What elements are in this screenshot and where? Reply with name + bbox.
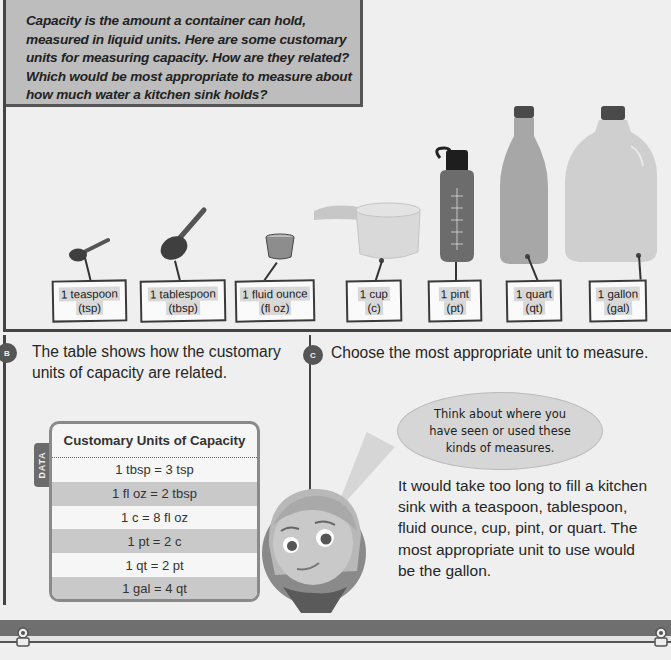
table-row: 1 gal = 4 qt xyxy=(52,577,257,601)
label-teaspoon: 1 teaspoon (tsp) xyxy=(52,279,128,322)
table-title: Customary Units of Capacity xyxy=(52,424,257,458)
label-tablespoon: 1 tablespoon (tbsp) xyxy=(140,279,227,322)
label-cup: 1 cup (c) xyxy=(346,280,403,323)
quart-bottle-icon xyxy=(496,106,552,266)
tablespoon-icon xyxy=(156,206,216,266)
intro-text: Capacity is the amount a container can h… xyxy=(26,12,361,105)
label-fluid-ounce: 1 fluid ounce (fl oz) xyxy=(235,279,316,322)
measuring-cup-icon xyxy=(314,196,424,266)
section-b-badge: B xyxy=(0,343,17,363)
speech-bubble: Think about where you have seen or used … xyxy=(397,392,603,470)
robot-marker-icon xyxy=(15,627,31,647)
character-avatar-icon xyxy=(261,475,367,615)
table-row: 1 fl oz = 2 tbsp xyxy=(52,482,257,506)
table-row: 1 c = 8 fl oz xyxy=(52,506,257,530)
table-row: 1 pt = 2 c xyxy=(52,529,257,553)
data-tab: DATA xyxy=(34,443,50,487)
gallon-jug-icon xyxy=(561,106,661,266)
fluid-ounce-cup-icon xyxy=(264,233,296,261)
table-row: 1 tbsp = 3 tsp xyxy=(52,458,257,482)
robot-marker-icon xyxy=(653,627,669,647)
panel-b-text: The table shows how the customary units … xyxy=(32,341,302,383)
panel-c-text: Choose the most appropriate unit to meas… xyxy=(331,342,671,363)
label-quart: 1 quart (qt) xyxy=(506,280,563,323)
footer-band-stripe xyxy=(0,636,671,643)
answer-text: It would take too long to fill a kitchen… xyxy=(398,475,653,581)
water-bottle-icon xyxy=(428,146,478,266)
capacity-table: Customary Units of Capacity 1 tbsp = 3 t… xyxy=(49,421,260,602)
label-gallon: 1 gallon (gal) xyxy=(589,279,648,322)
section-c-badge: C xyxy=(303,345,323,365)
textbook-page: Capacity is the amount a container can h… xyxy=(0,0,671,660)
teaspoon-icon xyxy=(66,236,116,266)
footer-band xyxy=(0,620,671,636)
label-pint: 1 pint (pt) xyxy=(428,280,483,323)
panel-a-capacity-units: Capacity is the amount a container can h… xyxy=(3,0,671,332)
intro-box: Capacity is the amount a container can h… xyxy=(6,0,363,107)
table-row: 1 qt = 2 pt xyxy=(52,553,257,577)
